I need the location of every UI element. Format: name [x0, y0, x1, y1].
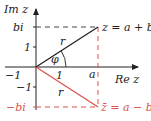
complex-plane-diagram: Im z Re z bi 1 −1 1 a −1 −bi r r φ z = a… — [0, 0, 151, 121]
label-z-conjugate: z̄ = a − bi — [100, 101, 151, 114]
tick-label-x-1: 1 — [56, 69, 63, 82]
y-axis-label: Im z — [3, 3, 28, 16]
label-r-lower: r — [58, 86, 64, 99]
label-z: z = a + bi — [101, 21, 151, 34]
vector-z — [36, 27, 98, 67]
tick-label-y-1: 1 — [24, 41, 31, 54]
tick-label-bi: bi — [13, 21, 24, 34]
label-r-upper: r — [60, 35, 66, 48]
tick-label-a: a — [89, 68, 96, 81]
label-angle-phi: φ — [51, 53, 59, 66]
tick-label-y-neg1: −1 — [16, 81, 32, 94]
x-axis-label: Re z — [114, 73, 139, 86]
tick-label-neg-bi: −bi — [6, 101, 26, 114]
angle-arc — [61, 51, 66, 67]
